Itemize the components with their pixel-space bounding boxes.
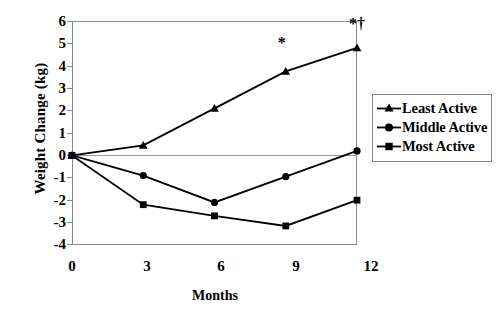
x-tick-label: 3: [132, 258, 162, 275]
y-tick-label: 0: [40, 148, 66, 163]
legend-label: Least Active: [402, 100, 477, 117]
data-point-marker: [282, 223, 289, 230]
x-axis-title: Months: [72, 288, 358, 304]
data-point-marker: [354, 197, 361, 204]
y-tick-label: -3: [40, 215, 66, 230]
y-tick-label: 5: [40, 36, 66, 51]
data-point-marker: [211, 212, 218, 219]
y-tick-label: -4: [40, 237, 66, 252]
series-line-middle-active: [72, 151, 357, 203]
significance-annotation-9mo: *: [278, 35, 286, 51]
x-tick-label: 12: [356, 258, 386, 275]
y-tick-label: 4: [40, 59, 66, 74]
data-point-marker: [140, 201, 147, 208]
plot-area: [72, 21, 357, 245]
data-point-marker: [140, 172, 147, 179]
series-line-least-active: [72, 48, 357, 156]
data-point-marker: [69, 152, 76, 159]
square-marker-icon: [376, 137, 402, 156]
circle-marker-icon: [376, 118, 402, 137]
data-series-layer: [72, 21, 357, 245]
legend-label: Middle Active: [402, 119, 487, 136]
legend-item-most-active[interactable]: Most Active: [376, 137, 487, 156]
data-point-marker: [210, 104, 219, 112]
chart-figure: Weight Change (kg) 6 5 4 3 2 1 0 -1 -2 -…: [0, 0, 503, 316]
legend-item-middle-active[interactable]: Middle Active: [376, 118, 487, 137]
x-tick-label: 0: [57, 258, 87, 275]
y-tick-label: 1: [40, 126, 66, 141]
data-point-marker: [282, 173, 289, 180]
y-tick-label: -2: [40, 193, 66, 208]
y-tick-label: 6: [40, 14, 66, 29]
x-tick-label: 6: [206, 258, 236, 275]
data-point-marker: [211, 199, 218, 206]
y-tick-label: 3: [40, 81, 66, 96]
x-tick-label: 9: [281, 258, 311, 275]
data-point-marker: [353, 147, 360, 154]
triangle-marker-icon: [376, 99, 402, 118]
legend-item-least-active[interactable]: Least Active: [376, 99, 487, 118]
y-tick-label: 2: [40, 103, 66, 118]
significance-annotation-12mo: *†: [349, 16, 365, 32]
legend-label: Most Active: [402, 138, 475, 155]
y-tick-label: -1: [40, 170, 66, 185]
legend: Least Active Middle Active Most Active: [372, 94, 492, 162]
data-point-marker: [353, 44, 362, 52]
